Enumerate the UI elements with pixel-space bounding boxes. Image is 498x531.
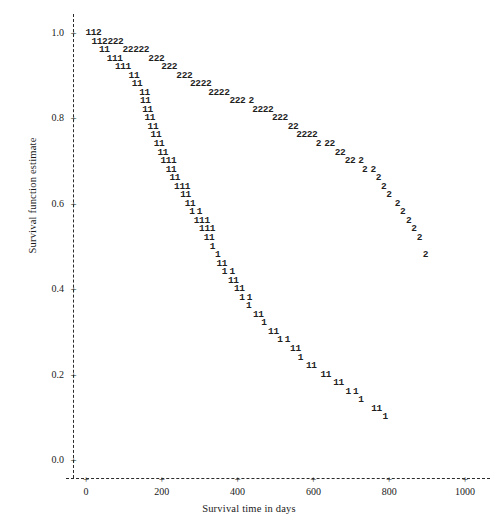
data-glyph-series-1: 1	[339, 378, 345, 388]
x-tick-label: 800	[382, 487, 397, 497]
survival-plot: Survival function estimate Survival time…	[0, 0, 498, 531]
y-tick-label: 0.8	[52, 113, 65, 123]
y-tick-marker: +	[70, 198, 76, 209]
x-tick-label: 600	[306, 487, 321, 497]
data-glyph-series-1: 1	[246, 302, 252, 312]
data-glyph-series-1: 1	[345, 387, 351, 397]
y-tick-label: 0.6	[52, 199, 65, 209]
data-glyph-series-1: 1	[239, 293, 245, 303]
y-tick-label: 0.4	[52, 284, 65, 294]
y-axis-line	[73, 14, 74, 478]
y-tick-label: 0.2	[52, 370, 65, 380]
y-tick-marker: +	[70, 28, 76, 39]
data-glyph-series-1: 1	[261, 319, 267, 329]
data-glyph-series-1: 1	[311, 361, 317, 371]
y-tick-label: 0.0	[52, 455, 65, 465]
x-tick-marker: +	[386, 473, 392, 484]
x-tick-marker: +	[83, 473, 89, 484]
y-tick-marker: +	[70, 284, 76, 295]
data-glyph-series-2: 2	[240, 97, 246, 107]
data-glyph-series-1: 1	[222, 267, 228, 277]
y-tick-marker: +	[70, 369, 76, 380]
x-tick-marker: +	[234, 473, 240, 484]
data-glyph-series-2: 2	[386, 191, 392, 201]
data-glyph-series-1: 1	[298, 353, 304, 363]
x-axis-line	[66, 478, 490, 479]
x-tick-marker: +	[310, 473, 316, 484]
data-glyph-series-2: 2	[316, 139, 322, 149]
y-tick-marker: +	[70, 113, 76, 124]
y-tick-marker: +	[70, 455, 76, 466]
x-tick-label: 0	[84, 487, 89, 497]
y-axis-title: Survival function estimate	[27, 106, 38, 286]
data-glyph-series-2: 2	[400, 208, 406, 218]
x-tick-label: 1000	[455, 487, 475, 497]
data-glyph-series-1: 1	[383, 413, 389, 423]
y-tick-label: 1.0	[52, 28, 65, 38]
x-tick-label: 400	[230, 487, 245, 497]
x-tick-marker: +	[462, 473, 468, 484]
data-glyph-series-2: 2	[96, 28, 102, 38]
x-axis-title: Survival time in days	[0, 503, 498, 514]
data-glyph-series-2: 2	[417, 233, 423, 243]
x-tick-marker: +	[159, 473, 165, 484]
data-glyph-series-1: 1	[277, 336, 283, 346]
data-glyph-series-2: 2	[362, 165, 368, 175]
data-glyph-series-1: 1	[376, 404, 382, 414]
data-glyph-series-1: 1	[326, 370, 332, 380]
data-glyph-series-1: 1	[358, 395, 364, 405]
data-glyph-series-2: 2	[423, 250, 429, 260]
data-glyph-series-2: 2	[350, 156, 356, 166]
x-tick-label: 200	[154, 487, 169, 497]
